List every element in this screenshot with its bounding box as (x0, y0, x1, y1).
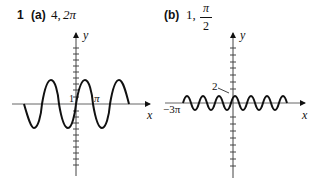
graph-a-x-label: x (147, 108, 152, 123)
graph-a-tick-label-pi: π (94, 92, 100, 104)
graph-a (12, 33, 150, 176)
graph-b-label-2-leader (218, 88, 229, 93)
graph-a-tick-label-1: 1 (69, 93, 74, 104)
graphs-canvas (0, 0, 318, 181)
graph-b-x-label: x (302, 108, 307, 123)
graph-a-y-label: y (83, 28, 88, 43)
graph-b (165, 33, 305, 178)
graph-b-tick-label-2: 2 (212, 80, 218, 92)
graph-b-tick-label-neg3pi: −3π (163, 103, 180, 115)
graph-b-y-label: y (240, 28, 245, 43)
